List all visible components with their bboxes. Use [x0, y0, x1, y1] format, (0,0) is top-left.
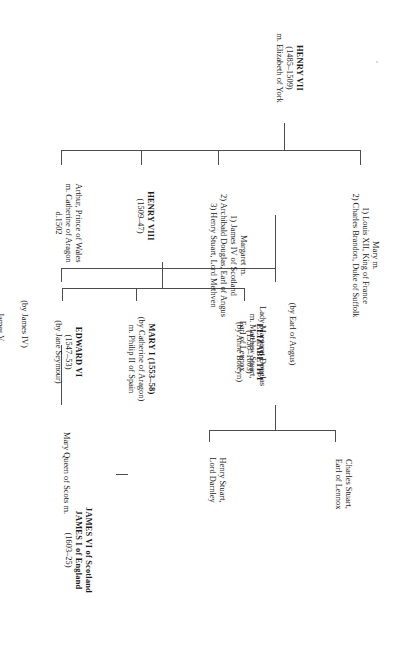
node-henry-darnley: Henry Stuart, Lord Darnley — [207, 444, 227, 516]
connector-to-edwardvi — [62, 288, 63, 301]
node-henry-vii: HENRY VII (1485–1509) m. Elizabeth of Yo… — [274, 18, 304, 118]
node-edward-vi: EDWARD VI (1547–53) (by Jane Seymour) — [53, 304, 83, 400]
node-arthur: Arthur, Prince of Wales m. Catherine of … — [53, 168, 83, 278]
node-henry-viii: HENRY VIII (1509–47) — [135, 168, 155, 264]
mary-tudor-marriage-1: 1) Louis XII, King of France — [360, 168, 370, 343]
connector-to-lady-margaret — [275, 268, 276, 282]
connector-margaret-stem — [275, 215, 276, 268]
family-tree-diagram: HENRY VII (1485–1509) m. Elizabeth of Yo… — [0, 0, 409, 662]
connector-henryvii-spine — [62, 150, 361, 151]
mary-tudor-name: Mary m. — [370, 168, 380, 343]
henry-vii-dates: (1485–1509) — [284, 18, 294, 118]
arthur-spouse: m. Catherine of Aragon — [63, 168, 73, 278]
henry-viii-dates: (1509–47) — [135, 168, 145, 264]
arthur-death: d.1502 — [53, 168, 63, 278]
edward-vi-name: EDWARD VI — [73, 304, 83, 400]
henry-viii-name: HENRY VIII — [145, 168, 155, 264]
node-lady-margaret-douglas: Lady Margaret Douglas m. Matthew Stuart,… — [237, 286, 267, 406]
lady-margaret-spouse-title: Earl of Lennox — [237, 286, 247, 406]
henry-darnley-name: Henry Stuart, — [217, 444, 227, 516]
margaret-marriage-3: 3) Henry Stuart, Lord Methven — [208, 168, 218, 343]
charles-stuart-title: Earl of Lennox — [333, 444, 343, 524]
node-charles-stuart: Charles Stuart, Earl of Lennox — [333, 444, 353, 524]
lady-margaret-spouse: m. Matthew Stuart, — [247, 286, 257, 406]
henry-darnley-title: Lord Darnley — [207, 444, 217, 516]
node-james-v: James V King of Scotland m. Mary of Guis… — [0, 286, 5, 368]
arthur-name: Arthur, Prince of Wales — [73, 168, 83, 278]
connector-ladymargaret-spine — [210, 430, 336, 431]
james-i-england: JAMES I of England — [73, 490, 83, 610]
james-vi-i-dates: (1603–25) — [63, 490, 73, 610]
connector-to-arthur — [61, 150, 62, 165]
connector-henryvii-stem — [284, 123, 285, 150]
rotated-canvas-wrapper: HENRY VII (1485–1509) m. Elizabeth of Yo… — [0, 0, 409, 662]
henry-vii-name: HENRY VII — [294, 18, 304, 118]
node-james-vi-and-i: JAMES VI of Scotland JAMES I of England … — [63, 490, 93, 610]
connector-ladymargaret-stem — [275, 405, 276, 430]
by-james-iv-label: (by James IV) — [19, 284, 29, 364]
charles-stuart-name: Charles Stuart, — [343, 444, 353, 524]
node-mary-i: MARY I (1553–58) (by Catherine of Aragon… — [126, 304, 156, 414]
by-earl-of-angus-label: (by Earl of Angus) — [287, 284, 297, 384]
james-v-name: James V — [0, 286, 5, 368]
mary-tudor-marriage-2: 2) Charles Brandon, Duke of Suffolk — [350, 168, 360, 343]
node-by-james-iv: (by James IV) — [19, 284, 29, 364]
diagram-canvas: HENRY VII (1485–1509) m. Elizabeth of Yo… — [0, 0, 409, 662]
connector-to-maryi — [136, 288, 137, 301]
mary-i-spouse: m. Philip II of Spain — [126, 304, 136, 414]
connector-to-mary-tudor — [360, 150, 361, 165]
margaret-marriage-2: 2) Archibald Douglas, Earl of Angus — [218, 168, 228, 343]
henry-vii-spouse: m. Elizabeth of York — [274, 18, 284, 118]
edward-vi-parentage: (by Jane Seymour) — [53, 304, 63, 400]
james-vi-scotland: JAMES VI of Scotland — [83, 490, 93, 610]
lady-margaret-name: Lady Margaret Douglas — [257, 286, 267, 406]
connector-to-darnley — [209, 430, 210, 442]
mary-i-name: MARY I (1553–58) — [146, 304, 156, 414]
mary-i-parentage: (by Catherine of Aragon) — [136, 304, 146, 414]
scan-speck — [376, 61, 378, 63]
node-by-earl-of-angus: (by Earl of Angus) — [287, 284, 297, 384]
connector-mqs-darnley-to-jamesvi — [116, 474, 128, 475]
connector-to-charles-stuart — [335, 430, 336, 442]
connector-to-margaret — [218, 150, 219, 165]
edward-vi-dates: (1547–53) — [63, 304, 73, 400]
connector-to-henryviii — [141, 150, 142, 165]
node-mary-tudor: Mary m. 1) Louis XII, King of France 2) … — [350, 168, 380, 343]
connector-henryviii-stem — [162, 262, 163, 288]
